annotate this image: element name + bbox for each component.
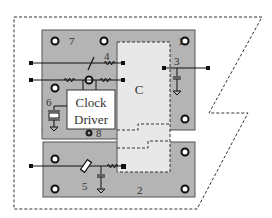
region-c-label: C: [135, 82, 144, 97]
label-7: 7: [69, 35, 75, 47]
label-4: 4: [104, 50, 110, 62]
clock-label: Clock: [75, 95, 107, 110]
label-1: 1: [178, 35, 184, 47]
label-2: 2: [137, 184, 143, 196]
circuit-board-diagram: Clock Driver C 1 2 3 4 5 6 7 8: [0, 0, 272, 218]
led-8-icon: [86, 130, 93, 137]
label-5: 5: [82, 180, 88, 192]
label-8: 8: [96, 127, 102, 139]
label-3: 3: [174, 55, 180, 67]
label-6: 6: [46, 96, 52, 108]
driver-label: Driver: [74, 112, 109, 127]
